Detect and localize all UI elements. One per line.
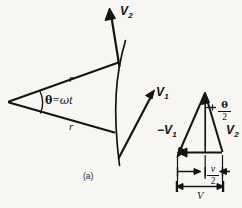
vector-v1-arrow <box>119 90 155 159</box>
angle-label: θ=ωt <box>45 95 72 107</box>
time-symbol: t <box>69 94 72 106</box>
vector-v2-arrow <box>105 8 120 67</box>
triangle-v2-subscript: 2 <box>234 130 238 139</box>
angle-arc <box>40 92 43 114</box>
dimension-label-v-half: v 2 <box>207 164 219 187</box>
triangle-v2-letter: V <box>226 123 234 137</box>
vector-v2-subscript: 2 <box>128 11 132 20</box>
triangle-label-minus-v1: −V1 <box>157 124 177 139</box>
radius-label-lower: r <box>69 121 73 132</box>
dimension-v-half <box>178 167 231 177</box>
triangle-group <box>177 92 223 158</box>
v-half-numerator: v <box>207 164 219 175</box>
dimension-group <box>176 155 230 192</box>
half-angle-numerator: θ <box>218 100 231 111</box>
vector-v1-letter: V <box>156 85 164 99</box>
triangle-left-leg <box>177 93 205 158</box>
minus-sign: − <box>157 123 164 137</box>
part-label: (a) <box>83 172 93 181</box>
figure-linework <box>0 0 242 208</box>
triangle-base-resultant <box>178 148 223 157</box>
equals-symbol: = <box>53 94 60 106</box>
dimension-label-v-full: V <box>197 191 203 202</box>
triangle-label-v2: V2 <box>226 124 239 139</box>
omega-symbol: ω <box>60 93 69 107</box>
radius-line-lower <box>9 103 115 133</box>
half-angle-label: θ 2 <box>218 100 231 123</box>
vector-label-v2: V2 <box>120 5 133 20</box>
minus-v1-letter: V <box>164 123 172 137</box>
vector-v1-subscript: 1 <box>164 92 168 101</box>
minus-v1-subscript: 1 <box>172 130 176 139</box>
radius-label-upper: r <box>69 73 73 84</box>
vector-label-v1: V1 <box>156 86 169 101</box>
vector-v2-letter: V <box>120 4 128 18</box>
half-angle-denominator: 2 <box>218 113 231 123</box>
theta-symbol: θ <box>45 94 52 107</box>
figure-panel-a: r r θ=ωt V1 V2 (a) θ 2 −V1 V2 v 2 V <box>0 0 242 208</box>
v-half-denominator: 2 <box>207 177 219 187</box>
